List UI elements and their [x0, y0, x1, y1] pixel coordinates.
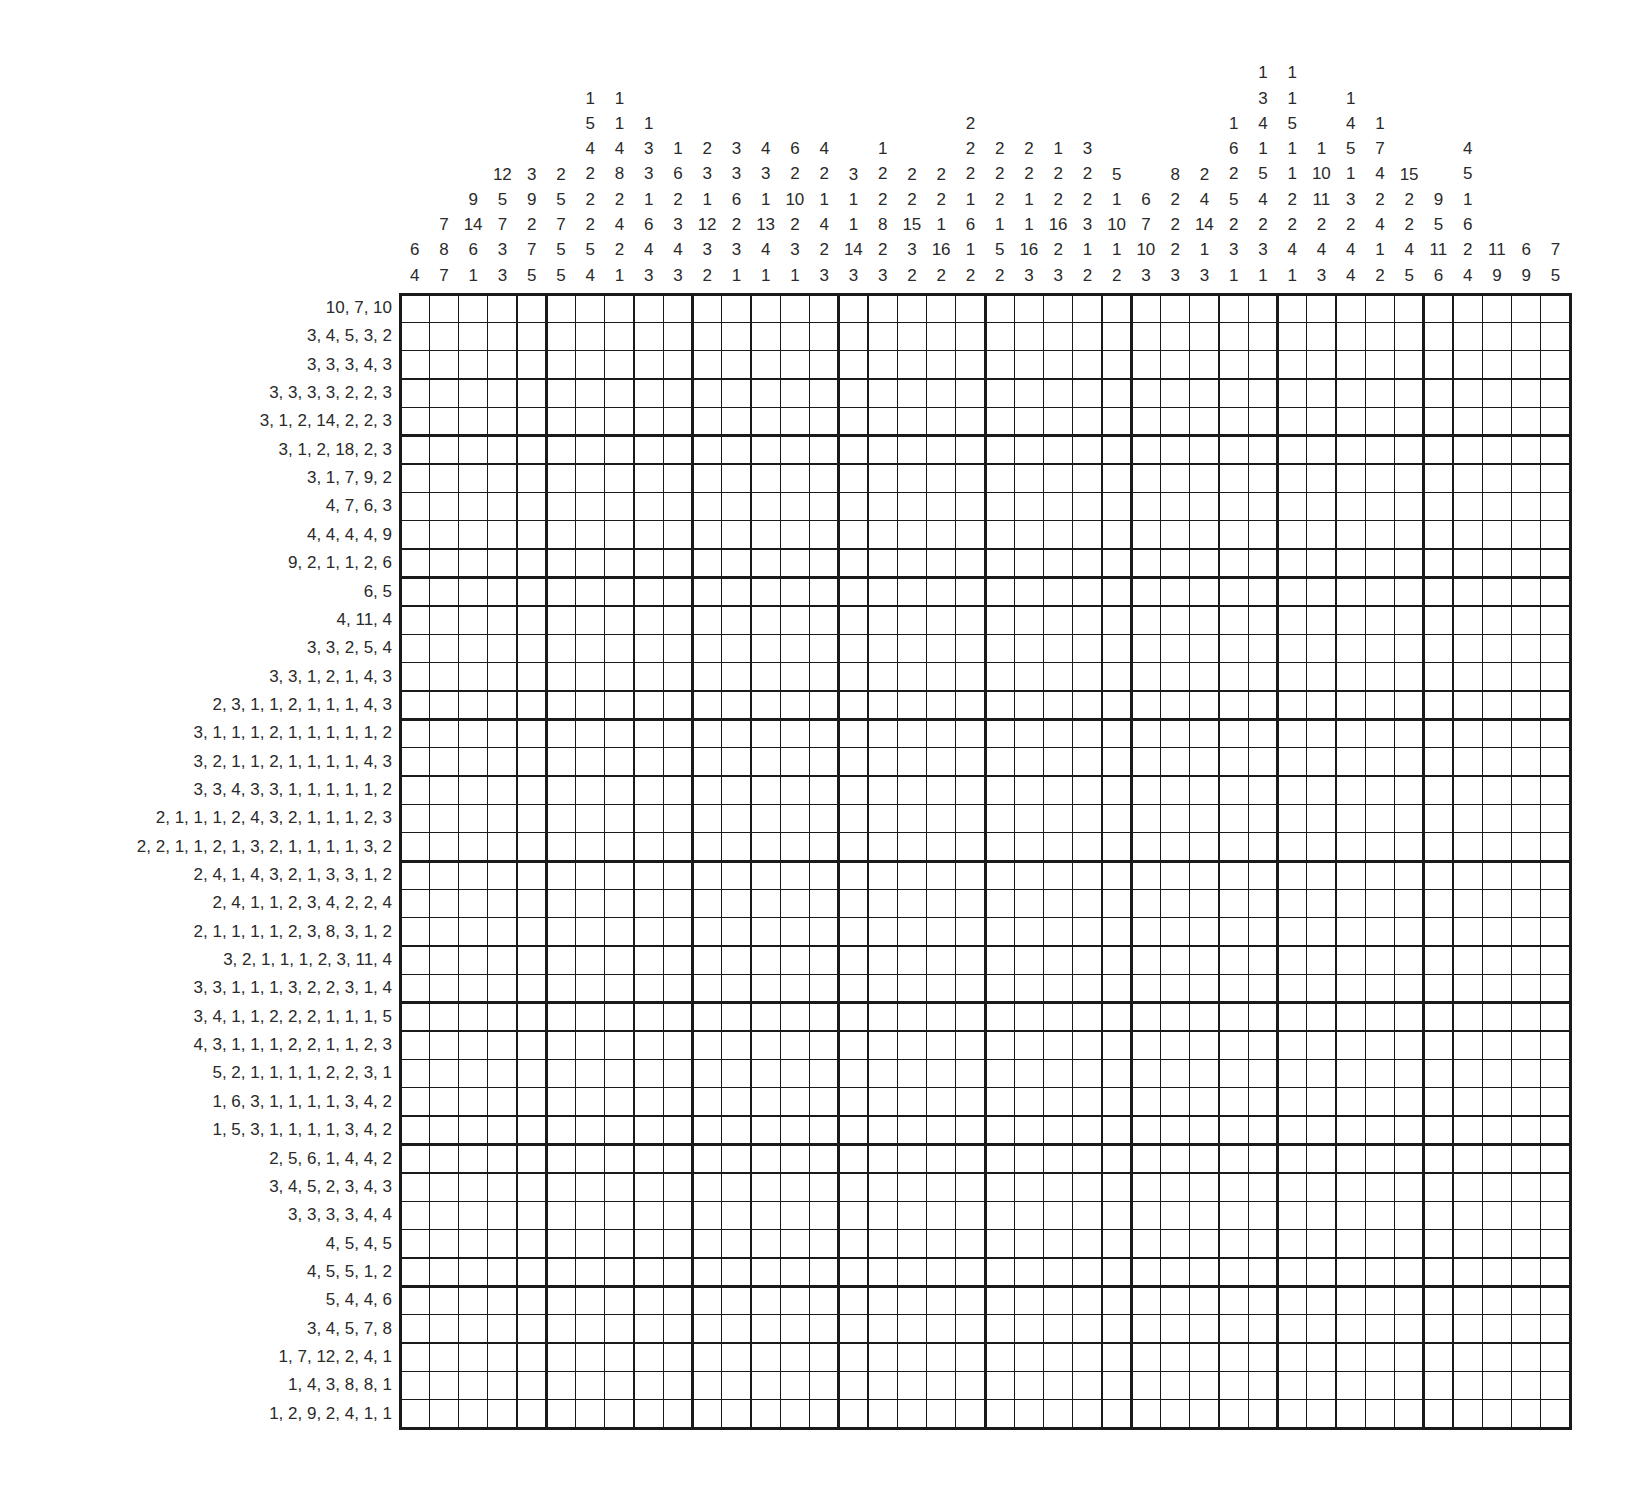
grid-cell[interactable] — [1424, 1003, 1453, 1031]
grid-cell[interactable] — [1131, 379, 1160, 407]
grid-cell[interactable] — [1336, 719, 1365, 747]
grid-cell[interactable] — [1395, 1400, 1424, 1428]
grid-cell[interactable] — [1512, 634, 1541, 662]
grid-cell[interactable] — [400, 407, 429, 435]
grid-cell[interactable] — [1073, 1258, 1102, 1286]
grid-cell[interactable] — [927, 1031, 956, 1059]
grid-cell[interactable] — [1512, 776, 1541, 804]
grid-cell[interactable] — [1073, 1286, 1102, 1314]
grid-cell[interactable] — [839, 1088, 868, 1116]
grid-cell[interactable] — [400, 1371, 429, 1399]
grid-cell[interactable] — [459, 804, 488, 832]
grid-cell[interactable] — [1014, 1173, 1043, 1201]
grid-cell[interactable] — [693, 1258, 722, 1286]
grid-cell[interactable] — [517, 946, 546, 974]
grid-cell[interactable] — [956, 804, 985, 832]
grid-cell[interactable] — [1190, 1258, 1219, 1286]
grid-cell[interactable] — [1336, 691, 1365, 719]
grid-cell[interactable] — [1219, 1258, 1248, 1286]
grid-cell[interactable] — [517, 294, 546, 322]
grid-cell[interactable] — [839, 776, 868, 804]
grid-cell[interactable] — [1365, 606, 1394, 634]
grid-cell[interactable] — [1482, 663, 1511, 691]
grid-cell[interactable] — [839, 1315, 868, 1343]
grid-cell[interactable] — [663, 1400, 692, 1428]
grid-cell[interactable] — [1424, 521, 1453, 549]
grid-cell[interactable] — [868, 379, 897, 407]
grid-cell[interactable] — [1190, 889, 1219, 917]
grid-cell[interactable] — [517, 1059, 546, 1087]
grid-cell[interactable] — [1512, 294, 1541, 322]
grid-cell[interactable] — [1014, 974, 1043, 1002]
grid-cell[interactable] — [693, 776, 722, 804]
grid-cell[interactable] — [1482, 833, 1511, 861]
grid-cell[interactable] — [459, 578, 488, 606]
grid-cell[interactable] — [517, 1173, 546, 1201]
grid-cell[interactable] — [693, 974, 722, 1002]
grid-cell[interactable] — [1278, 748, 1307, 776]
grid-cell[interactable] — [1248, 1315, 1277, 1343]
grid-cell[interactable] — [985, 1315, 1014, 1343]
grid-cell[interactable] — [546, 1173, 575, 1201]
grid-cell[interactable] — [1014, 294, 1043, 322]
grid-cell[interactable] — [1336, 1286, 1365, 1314]
grid-cell[interactable] — [488, 663, 517, 691]
grid-cell[interactable] — [663, 549, 692, 577]
grid-cell[interactable] — [751, 294, 780, 322]
grid-cell[interactable] — [1365, 1400, 1394, 1428]
grid-cell[interactable] — [810, 691, 839, 719]
grid-cell[interactable] — [751, 606, 780, 634]
grid-cell[interactable] — [1307, 1371, 1336, 1399]
grid-cell[interactable] — [1219, 379, 1248, 407]
grid-cell[interactable] — [1365, 889, 1394, 917]
grid-cell[interactable] — [868, 1371, 897, 1399]
grid-cell[interactable] — [1190, 1116, 1219, 1144]
grid-cell[interactable] — [1482, 1116, 1511, 1144]
grid-cell[interactable] — [693, 578, 722, 606]
grid-cell[interactable] — [1541, 804, 1570, 832]
grid-cell[interactable] — [722, 974, 751, 1002]
grid-cell[interactable] — [839, 578, 868, 606]
grid-cell[interactable] — [1336, 294, 1365, 322]
grid-cell[interactable] — [1219, 1116, 1248, 1144]
grid-cell[interactable] — [605, 1343, 634, 1371]
grid-cell[interactable] — [634, 833, 663, 861]
grid-cell[interactable] — [576, 833, 605, 861]
grid-cell[interactable] — [1365, 1315, 1394, 1343]
grid-cell[interactable] — [1453, 294, 1482, 322]
grid-cell[interactable] — [927, 776, 956, 804]
grid-cell[interactable] — [1278, 833, 1307, 861]
grid-cell[interactable] — [1395, 889, 1424, 917]
grid-cell[interactable] — [1482, 1258, 1511, 1286]
grid-cell[interactable] — [488, 804, 517, 832]
grid-cell[interactable] — [1453, 1145, 1482, 1173]
grid-cell[interactable] — [1131, 663, 1160, 691]
grid-cell[interactable] — [1073, 1116, 1102, 1144]
grid-cell[interactable] — [1248, 492, 1277, 520]
grid-cell[interactable] — [1161, 634, 1190, 662]
grid-cell[interactable] — [1073, 1230, 1102, 1258]
grid-cell[interactable] — [985, 1343, 1014, 1371]
grid-cell[interactable] — [693, 918, 722, 946]
grid-cell[interactable] — [1044, 634, 1073, 662]
grid-cell[interactable] — [956, 889, 985, 917]
grid-cell[interactable] — [1248, 719, 1277, 747]
grid-cell[interactable] — [1307, 833, 1336, 861]
grid-cell[interactable] — [868, 1145, 897, 1173]
grid-cell[interactable] — [1073, 379, 1102, 407]
grid-cell[interactable] — [1014, 776, 1043, 804]
grid-cell[interactable] — [868, 748, 897, 776]
grid-cell[interactable] — [1307, 776, 1336, 804]
grid-cell[interactable] — [1336, 946, 1365, 974]
grid-cell[interactable] — [927, 1145, 956, 1173]
grid-cell[interactable] — [1044, 351, 1073, 379]
grid-cell[interactable] — [1453, 549, 1482, 577]
grid-cell[interactable] — [459, 719, 488, 747]
grid-cell[interactable] — [576, 691, 605, 719]
grid-cell[interactable] — [1365, 748, 1394, 776]
grid-cell[interactable] — [1541, 1201, 1570, 1229]
grid-cell[interactable] — [1014, 1343, 1043, 1371]
grid-cell[interactable] — [927, 1258, 956, 1286]
grid-cell[interactable] — [1424, 974, 1453, 1002]
grid-cell[interactable] — [1395, 436, 1424, 464]
